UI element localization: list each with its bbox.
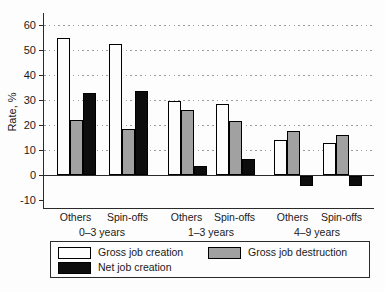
- y-tick-label: -10: [6, 193, 36, 207]
- bar-net-job-creation: [194, 166, 207, 175]
- bar-gross-job-creation: [216, 104, 229, 175]
- legend-label: Gross job destruction: [248, 246, 347, 259]
- x-group-label: Others: [60, 211, 92, 224]
- y-tick-mark: [39, 25, 44, 26]
- bar-gross-job-destruction: [287, 131, 300, 175]
- legend-label: Gross job creation: [98, 246, 183, 259]
- y-tick-mark: [39, 100, 44, 101]
- bar-gross-job-creation: [274, 140, 287, 175]
- x-group-label: Spin-offs: [107, 211, 148, 224]
- legend-item: Gross job creation: [58, 246, 183, 259]
- gridline: [44, 50, 374, 51]
- legend-item: Net job creation: [58, 261, 172, 274]
- y-tick-label: 50: [6, 43, 36, 57]
- y-tick-mark: [39, 175, 44, 176]
- y-tick-mark: [39, 75, 44, 76]
- bar-gross-job-destruction: [336, 135, 349, 175]
- zero-baseline: [44, 175, 374, 176]
- y-tick-label: 10: [6, 143, 36, 157]
- x-age-group-label: 1–3 years: [188, 226, 234, 239]
- y-tick-label: 40: [6, 68, 36, 82]
- plot-area: 6050403020100-10: [43, 13, 374, 209]
- bar-net-job-creation: [83, 93, 96, 176]
- x-age-group-label: 4–9 years: [294, 226, 340, 239]
- legend-item: Gross job destruction: [208, 246, 347, 259]
- figure: Rate, % 6050403020100-10 OthersSpin-offs…: [0, 0, 385, 292]
- bar-gross-job-destruction: [229, 121, 242, 175]
- x-group-label: Spin-offs: [214, 211, 255, 224]
- bar-gross-job-creation: [168, 101, 181, 175]
- y-tick-mark: [39, 200, 44, 201]
- y-tick-mark: [39, 125, 44, 126]
- y-tick-mark: [39, 150, 44, 151]
- gridline: [44, 25, 374, 26]
- net-job-creation-swatch: [58, 262, 91, 274]
- x-group-label: Spin-offs: [321, 211, 362, 224]
- bar-gross-job-creation: [57, 38, 70, 176]
- y-tick-label: 20: [6, 118, 36, 132]
- y-tick-label: 30: [6, 93, 36, 107]
- legend-label: Net job creation: [98, 261, 172, 274]
- bar-gross-job-destruction: [70, 120, 83, 175]
- gridline: [44, 75, 374, 76]
- x-group-label: Others: [277, 211, 309, 224]
- y-tick-label: 60: [6, 18, 36, 32]
- x-group-label: Others: [171, 211, 203, 224]
- bar-gross-job-destruction: [181, 110, 194, 175]
- legend: Gross job creation Gross job destruction…: [50, 241, 370, 278]
- bar-net-job-creation: [349, 176, 362, 186]
- bar-gross-job-creation: [109, 44, 122, 175]
- bar-net-job-creation: [135, 91, 148, 175]
- y-tick-mark: [39, 50, 44, 51]
- y-tick-label: 0: [6, 168, 36, 182]
- bar-gross-job-creation: [323, 143, 336, 176]
- gross-job-destruction-swatch: [208, 247, 241, 259]
- bar-net-job-creation: [242, 159, 255, 175]
- bar-gross-job-destruction: [122, 129, 135, 175]
- gross-job-creation-swatch: [58, 247, 91, 259]
- bar-net-job-creation: [300, 176, 313, 186]
- x-age-group-label: 0–3 years: [79, 226, 125, 239]
